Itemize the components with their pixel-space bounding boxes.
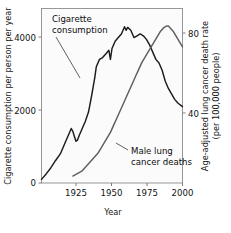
ytick-left-2000: 2000 [14, 106, 36, 116]
xtick-1950: 1950 [101, 188, 123, 198]
cigarette-consumption-label-line1: Cigarette [52, 14, 92, 24]
male-lung-cancer-label-line2: cancer deaths [131, 157, 193, 167]
x-axis-title: Year [103, 207, 122, 217]
male-lung-cancer-label-line1: Male lung [131, 146, 173, 156]
y-axis-title-right-line2: (per 100,000 people) [211, 53, 221, 140]
chart-svg: 0 2000 4000 40 80 1925 1950 1975 2000 Ye… [0, 0, 231, 233]
chart-figure: 0 2000 4000 40 80 1925 1950 1975 2000 Ye… [0, 0, 231, 233]
y-axis-title-right-line1: Age-adjusted lung cancer death rate [200, 21, 210, 171]
ytick-right-40: 40 [188, 109, 199, 119]
ytick-left-4000: 4000 [14, 33, 36, 43]
xtick-2000: 2000 [172, 188, 194, 198]
ytick-right-80: 80 [188, 29, 199, 39]
ytick-left-0: 0 [31, 178, 36, 188]
cigarette-consumption-label-line2: consumption [52, 25, 108, 35]
xtick-1925: 1925 [65, 188, 87, 198]
xtick-1975: 1975 [136, 188, 158, 198]
y-axis-title-left: Cigarette consumption per person per yea… [3, 7, 13, 185]
